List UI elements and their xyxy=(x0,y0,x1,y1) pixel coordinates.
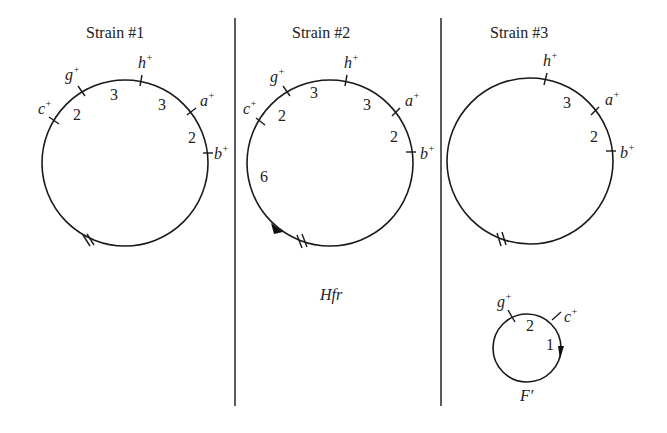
gene-a: a+ xyxy=(200,90,215,109)
distance: 2 xyxy=(73,106,81,123)
gene-g: g+ xyxy=(497,291,512,311)
hfr-label: Hfr xyxy=(319,286,343,304)
gene-a: a+ xyxy=(605,89,620,108)
gene-b: b+ xyxy=(420,143,435,162)
f-prime-plasmid: g+ c+ 2 1 F′ xyxy=(493,291,578,404)
f-prime-label: F′ xyxy=(519,387,534,404)
distance: 3 xyxy=(110,86,118,103)
gene-c: c+ xyxy=(243,98,257,117)
gene-g: g+ xyxy=(65,64,80,84)
distance: 2 xyxy=(188,129,196,146)
gene-h: h+ xyxy=(138,52,153,71)
origin-marker xyxy=(497,233,501,246)
distance: 2 xyxy=(390,128,398,145)
gene-c: c+ xyxy=(564,306,578,325)
gene-a: a+ xyxy=(405,90,420,109)
distance: 2 xyxy=(590,128,598,145)
distance: 1 xyxy=(546,336,554,353)
distance: 3 xyxy=(158,96,166,113)
distance: 2 xyxy=(278,107,286,124)
gene-g: g+ xyxy=(270,66,285,86)
gene-b: b+ xyxy=(620,142,635,161)
panel-title: Strain #1 xyxy=(86,24,144,41)
distance: 3 xyxy=(563,94,571,111)
gene-b: b+ xyxy=(214,143,229,162)
tick-h xyxy=(345,75,347,86)
tick-c xyxy=(552,312,561,320)
panel-title: Strain #3 xyxy=(490,24,548,41)
conjugation-diagram: Strain #1 c+ g+ h+ a+ b+ 2 3 3 2 Strain … xyxy=(0,0,667,433)
gene-c: c+ xyxy=(38,98,52,117)
chromosome-circle xyxy=(247,80,413,246)
panel-strain-1: Strain #1 c+ g+ h+ a+ b+ 2 3 3 2 xyxy=(38,24,229,246)
panel-strain-3: Strain #3 h+ a+ b+ 3 2 xyxy=(447,24,635,246)
distance: 3 xyxy=(363,96,371,113)
gene-h: h+ xyxy=(344,52,359,71)
tick-c xyxy=(49,117,59,124)
distance: 3 xyxy=(310,84,318,101)
tick-h xyxy=(140,75,142,86)
chromosome-circle xyxy=(42,80,208,246)
transfer-arrow-icon xyxy=(271,223,283,234)
transfer-arrow-icon xyxy=(558,346,564,359)
gene-h: h+ xyxy=(543,50,558,69)
panel-strain-2: Strain #2 c+ g+ h+ a+ b+ 2 3 3 2 6 Hfr xyxy=(243,24,435,304)
distance: 6 xyxy=(260,168,268,185)
chromosome-circle xyxy=(447,78,613,244)
panel-title: Strain #2 xyxy=(292,24,350,41)
distance: 2 xyxy=(526,317,534,334)
